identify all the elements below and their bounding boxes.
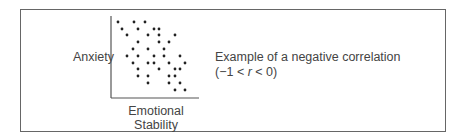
data-point	[126, 34, 129, 37]
data-point	[132, 48, 135, 51]
caption-line1: Example of a negative correlation	[215, 50, 401, 65]
data-point	[174, 34, 177, 37]
data-point	[126, 55, 129, 58]
data-point	[179, 55, 182, 58]
data-points	[117, 21, 187, 92]
data-point	[133, 21, 136, 24]
data-point	[158, 28, 161, 31]
data-point	[147, 62, 150, 65]
data-point	[137, 68, 140, 71]
data-point	[121, 28, 124, 31]
data-point	[168, 41, 171, 44]
data-point	[163, 48, 166, 51]
data-point	[147, 48, 150, 51]
data-point	[168, 62, 171, 65]
data-point	[137, 28, 140, 31]
data-point	[184, 89, 187, 92]
data-point	[117, 21, 120, 24]
x-axis-label-line2: Stability	[112, 118, 200, 132]
data-point	[153, 28, 156, 31]
data-point	[153, 55, 156, 58]
caption: Example of a negative correlation (−1 < …	[215, 50, 401, 80]
caption-prefix: (−1 <	[215, 65, 248, 79]
data-point	[184, 62, 187, 65]
data-point	[174, 89, 177, 92]
data-point	[147, 34, 150, 37]
caption-suffix: < 0)	[252, 65, 277, 79]
data-point	[174, 75, 177, 78]
caption-line2: (−1 < r < 0)	[215, 65, 401, 80]
data-point	[163, 55, 166, 58]
data-point	[153, 62, 156, 65]
data-point	[179, 82, 182, 85]
data-point	[179, 68, 182, 71]
x-axis-label-line1: Emotional	[112, 104, 200, 118]
data-point	[158, 34, 161, 37]
data-point	[137, 55, 140, 58]
data-point	[174, 68, 177, 71]
data-point	[147, 75, 150, 78]
data-point	[158, 41, 161, 44]
data-point	[137, 41, 140, 44]
data-point	[158, 68, 161, 71]
data-point	[168, 82, 171, 85]
data-point	[168, 75, 171, 78]
data-point	[144, 21, 147, 24]
data-point	[137, 75, 140, 78]
data-point	[132, 62, 135, 65]
data-point	[147, 82, 150, 85]
x-axis-label: Emotional Stability	[112, 104, 200, 132]
